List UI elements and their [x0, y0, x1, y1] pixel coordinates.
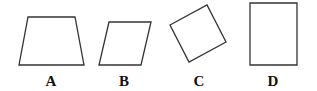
shape-a-group: A	[19, 17, 84, 89]
shape-b-group: B	[99, 22, 151, 89]
shape-a-label: A	[46, 73, 57, 89]
rotated-square-shape	[170, 5, 226, 62]
parallelogram-shape	[99, 22, 151, 65]
shape-b-label: B	[119, 73, 129, 89]
shape-c-group: C	[170, 5, 226, 89]
shape-d-label: D	[268, 73, 279, 89]
shape-c-label: C	[194, 73, 205, 89]
trapezoid-shape	[19, 17, 84, 65]
shapes-figure: A B C D	[0, 0, 317, 91]
rectangle-shape	[250, 3, 297, 65]
shape-d-group: D	[250, 3, 297, 89]
